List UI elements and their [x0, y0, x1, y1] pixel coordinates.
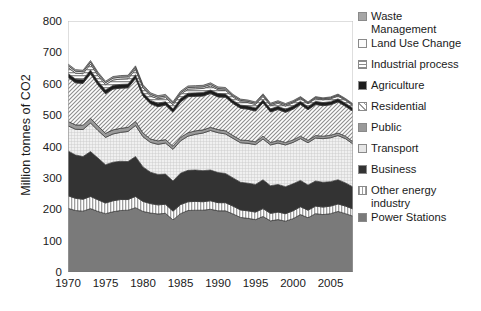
land-use-change-swatch [358, 39, 367, 48]
y-axis-tick-label: 300 [26, 172, 62, 184]
legend-item-label: Other energy industry [371, 184, 480, 210]
industrial-process-swatch [358, 60, 367, 69]
legend-spacer [358, 135, 480, 142]
x-axis-tick-label: 1985 [161, 277, 201, 289]
x-axis-tick-label: 1970 [48, 277, 88, 289]
legend-spacer [358, 156, 480, 163]
y-axis-tick-label: 600 [26, 78, 62, 90]
legend-item-transport[interactable]: Transport [358, 142, 480, 155]
legend-item-label: Transport [371, 142, 480, 155]
y-axis-tick-label: 800 [26, 15, 62, 27]
legend-item-label: Residential [371, 100, 480, 113]
business-swatch [358, 165, 367, 174]
y-axis-tick-label: 100 [26, 235, 62, 247]
y-axis-tick-labels: 0100200300400500600700800 [22, 0, 62, 311]
x-axis-tick-label: 1975 [86, 277, 126, 289]
legend-item-label: Agriculture [371, 79, 480, 92]
legend-spacer [358, 93, 480, 100]
legend-spacer [358, 72, 480, 79]
legend-item-label: Business [371, 163, 480, 176]
legend-item-business[interactable]: Business [358, 163, 480, 176]
legend-item-label: Waste Management [371, 10, 480, 36]
y-axis-tick-label: 400 [26, 141, 62, 153]
legend-item-residential[interactable]: Residential [358, 100, 480, 113]
x-axis-tick-labels: 19701975198019851990199520002005 [0, 277, 481, 297]
public-swatch [358, 123, 367, 132]
x-axis-tick-label: 1995 [236, 277, 276, 289]
legend-item-label: Power Stations [371, 211, 480, 224]
chart-legend: Waste ManagementLand Use ChangeIndustria… [358, 10, 480, 225]
other-energy-industry-swatch [358, 186, 367, 195]
chart-figure: Million tonnes of CO2 010020030040050060… [0, 0, 481, 311]
legend-spacer [358, 114, 480, 121]
y-axis-tick-label: 500 [26, 109, 62, 121]
x-axis-tick-label: 1990 [198, 277, 238, 289]
legend-item-power-stations[interactable]: Power Stations [358, 211, 480, 224]
legend-spacer [358, 177, 480, 184]
legend-item-label: Industrial process [371, 58, 480, 71]
area-band-power-stations [68, 208, 353, 272]
waste-management-swatch [358, 12, 367, 21]
transport-swatch [358, 144, 367, 153]
power-stations-swatch [358, 213, 367, 222]
plot-area [68, 21, 353, 272]
y-axis-tick-label: 200 [26, 203, 62, 215]
legend-item-land-use-change[interactable]: Land Use Change [358, 37, 480, 50]
x-axis-tick-label: 2000 [273, 277, 313, 289]
legend-spacer [358, 51, 480, 58]
legend-item-industrial-process[interactable]: Industrial process [358, 58, 480, 71]
legend-item-agriculture[interactable]: Agriculture [358, 79, 480, 92]
legend-item-public[interactable]: Public [358, 121, 480, 134]
x-axis-tick-label: 2005 [311, 277, 351, 289]
agriculture-swatch [358, 81, 367, 90]
y-axis-tick-label: 700 [26, 46, 62, 58]
legend-item-waste-management[interactable]: Waste Management [358, 10, 480, 36]
legend-item-label: Land Use Change [371, 37, 480, 50]
legend-item-other-energy-industry[interactable]: Other energy industry [358, 184, 480, 210]
x-axis-tick-label: 1980 [123, 277, 163, 289]
residential-swatch [358, 102, 367, 111]
legend-item-label: Public [371, 121, 480, 134]
